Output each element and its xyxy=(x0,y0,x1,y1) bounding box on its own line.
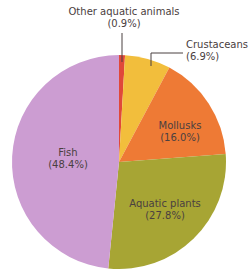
label-percent: (0.9%) xyxy=(69,18,180,30)
label-mollusks: Mollusks (16.0%) xyxy=(159,120,202,144)
label-percent: (6.9%) xyxy=(186,51,248,63)
label-fish: Fish (48.4%) xyxy=(48,147,88,171)
label-name: Fish xyxy=(48,147,88,159)
label-percent: (27.8%) xyxy=(129,210,201,222)
label-crustaceans: Crustaceans (6.9%) xyxy=(186,39,248,63)
label-percent: (48.4%) xyxy=(48,159,88,171)
label-name: Other aquatic animals xyxy=(69,6,180,18)
label-name: Crustaceans xyxy=(186,39,248,51)
label-percent: (16.0%) xyxy=(159,132,202,144)
label-name: Aquatic plants xyxy=(129,198,201,210)
label-name: Mollusks xyxy=(159,120,202,132)
pie-slices xyxy=(12,55,226,269)
label-other-aquatic-animals: Other aquatic animals (0.9%) xyxy=(69,6,180,30)
label-aquatic-plants: Aquatic plants (27.8%) xyxy=(129,198,201,222)
